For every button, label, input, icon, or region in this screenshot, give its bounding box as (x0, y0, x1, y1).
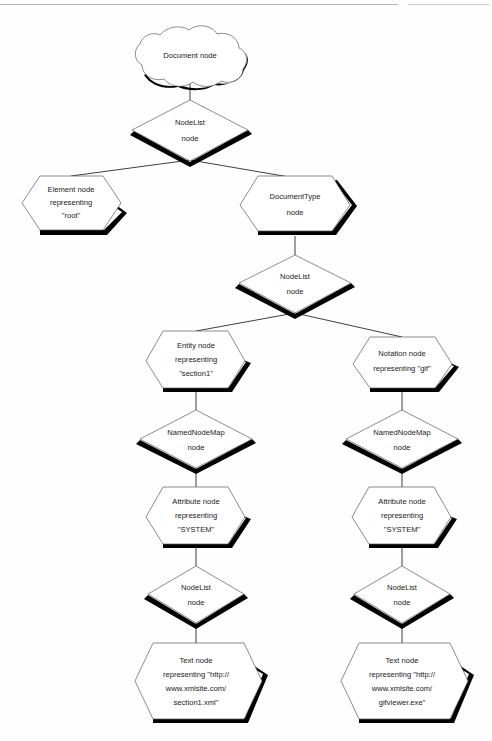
nodelist-attr-right-label-2: node (394, 598, 411, 607)
attribute-left-label-2: representing (175, 511, 217, 520)
node-text-left[interactable]: Text node representing "http:// www.xmls… (135, 643, 268, 723)
documenttype-label-1: DocumentType (269, 192, 320, 201)
text-left-label-1: Text node (180, 656, 213, 665)
text-left-label-4: section1.xml" (174, 698, 219, 707)
notation-label-1: Notation node (378, 349, 425, 358)
connector-nodelist-to-element (71, 160, 190, 176)
entity-label-2: representing (175, 355, 217, 364)
connector-nodelist-to-entity (196, 313, 295, 331)
node-attribute-left[interactable]: Attribute node representing "SYSTEM" (146, 487, 251, 548)
text-right-label-2: representing "http:// (369, 670, 436, 679)
text-right-outline (341, 643, 468, 719)
element-root-label-1: Element node (48, 185, 95, 194)
node-notation[interactable]: Notation node representing "gif" (353, 337, 459, 392)
namednodemap-left-label-1: NamedNodeMap (167, 428, 224, 437)
notation-label-2: representing "gif" (373, 364, 431, 373)
element-root-label-2: representing (50, 198, 92, 207)
node-namednodemap-left[interactable]: NamedNodeMap node (136, 410, 256, 474)
document-label: Document node (163, 51, 217, 60)
namednodemap-right-label-2: node (394, 443, 411, 452)
dom-tree-diagram: Document node NodeList node Element node… (0, 0, 492, 741)
node-documenttype[interactable]: DocumentType node (240, 176, 357, 235)
text-right-label-1: Text node (386, 656, 419, 665)
node-namednodemap-right[interactable]: NamedNodeMap node (342, 410, 462, 474)
namednodemap-left-label-2: node (188, 443, 205, 452)
nodelist-doctype-outline (239, 255, 351, 313)
node-attribute-right[interactable]: Attribute node representing "SYSTEM" (352, 487, 457, 548)
node-nodelist-attr-left[interactable]: NodeList node (144, 566, 248, 629)
node-text-right[interactable]: Text node representing "http:// www.xmls… (341, 643, 474, 723)
text-right-label-4: gifviewer.exe" (379, 698, 426, 707)
nodelist-root-outline (132, 100, 248, 161)
node-nodelist-doctype[interactable]: NodeList node (235, 255, 355, 319)
nodelist-attr-right-label-1: NodeList (387, 583, 418, 592)
nodelist-doctype-label-1: NodeList (280, 272, 311, 281)
text-right-label-3: www.xmlsite.com/ (371, 684, 433, 693)
attribute-left-label-1: Attribute node (172, 497, 219, 506)
text-left-label-2: representing "http:// (163, 670, 230, 679)
node-document[interactable]: Document node (135, 26, 248, 90)
node-element-root[interactable]: Element node representing "root" (22, 176, 127, 235)
attribute-left-label-3: "SYSTEM" (178, 525, 215, 534)
namednodemap-left-outline (140, 410, 252, 468)
node-nodelist-attr-right[interactable]: NodeList node (350, 566, 454, 629)
namednodemap-right-label-1: NamedNodeMap (373, 428, 430, 437)
entity-label-1: Entity node (177, 341, 215, 350)
nodelist-root-label-2: node (182, 134, 199, 143)
nodelist-attr-left-label-2: node (188, 598, 205, 607)
text-left-label-3: www.xmlsite.com/ (165, 684, 227, 693)
diagram-canvas: Document node NodeList node Element node… (0, 0, 492, 741)
nodelist-attr-left-outline (148, 566, 244, 623)
connector-nodelist-to-notation (295, 313, 402, 337)
nodelist-root-label-1: NodeList (175, 118, 206, 127)
namednodemap-right-outline (346, 410, 458, 468)
node-entity[interactable]: Entity node representing "section1" (146, 331, 251, 392)
documenttype-outline (240, 176, 350, 231)
nodelist-attr-left-label-1: NodeList (181, 583, 212, 592)
text-left-outline (135, 643, 262, 719)
notation-outline (353, 337, 452, 388)
connector-nodelist-to-documenttype (190, 160, 295, 178)
documenttype-label-2: node (287, 208, 304, 217)
entity-label-3: "section1" (179, 369, 213, 378)
nodelist-attr-right-outline (354, 566, 450, 623)
node-nodelist-root[interactable]: NodeList node (130, 100, 252, 167)
element-root-label-3: "root" (62, 211, 81, 220)
attribute-right-label-1: Attribute node (378, 497, 425, 506)
nodelist-doctype-label-2: node (287, 287, 304, 296)
attribute-right-label-3: "SYSTEM" (384, 525, 421, 534)
attribute-right-label-2: representing (381, 511, 423, 520)
